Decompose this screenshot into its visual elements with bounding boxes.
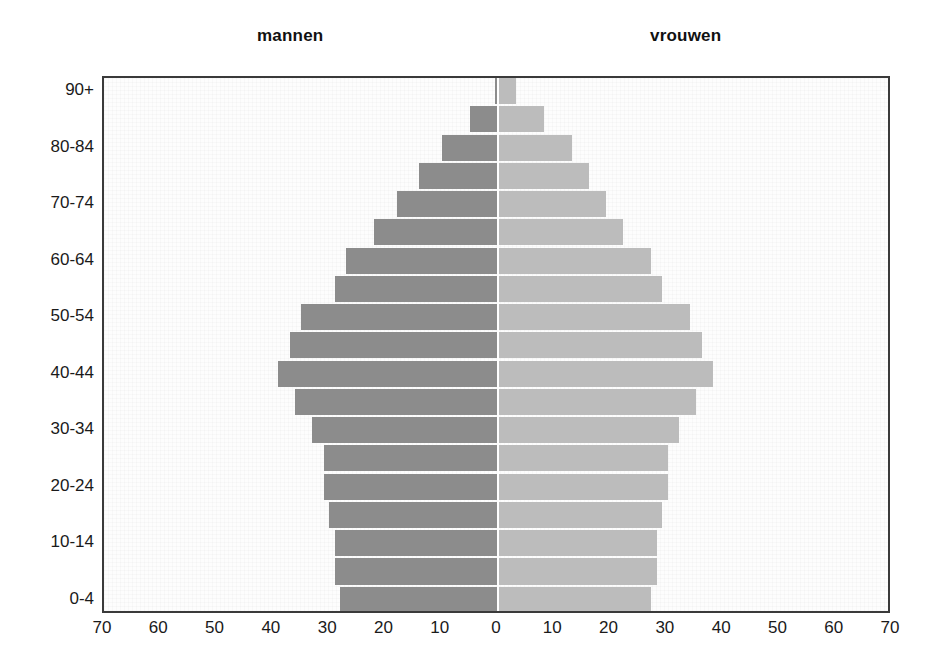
x-tick-label-14: 70 [881,618,900,638]
bar-row [104,530,888,556]
bar-male-70-74 [397,191,498,217]
bar-female-10-14 [499,530,657,556]
bar-female-75-79 [499,163,589,189]
bar-male-5-9 [335,558,498,584]
x-tick-label-7: 0 [491,618,500,638]
x-tick-label-10: 30 [655,618,674,638]
bar-row [104,389,888,415]
bar-row [104,163,888,189]
x-tick-label-5: 20 [374,618,393,638]
bar-row [104,106,888,132]
y-axis: 90+80-8470-7460-6450-5440-4430-3420-2410… [0,76,94,613]
chart-legend: mannen vrouwen [102,26,890,52]
legend-label-vrouwen: vrouwen [650,26,721,46]
x-tick-label-8: 10 [543,618,562,638]
bar-male-45-49 [290,332,498,358]
y-tick-label-40-44: 40-44 [51,363,94,383]
bar-male-55-59 [335,276,498,302]
bar-female-50-54 [499,304,690,330]
y-tick-label-0-4: 0-4 [69,589,94,609]
bar-row [104,248,888,274]
bar-row [104,332,888,358]
bar-female-55-59 [499,276,662,302]
bar-female-25-29 [499,445,668,471]
x-tick-label-9: 20 [599,618,618,638]
bar-row [104,219,888,245]
x-tick-label-11: 40 [712,618,731,638]
bar-male-50-54 [301,304,498,330]
bar-male-15-19 [329,502,498,528]
bar-row [104,587,888,613]
bar-female-70-74 [499,191,606,217]
bar-female-80-84 [499,135,572,161]
bar-female-40-44 [499,361,713,387]
bar-female-85-89 [499,106,544,132]
x-axis: 70605040302010010203040506070 [102,618,890,648]
bar-row [104,361,888,387]
x-tick-label-1: 60 [149,618,168,638]
bar-male-75-79 [419,163,498,189]
bar-male-25-29 [324,445,498,471]
bar-female-5-9 [499,558,657,584]
bar-row [104,304,888,330]
bars-layer [104,78,888,611]
x-tick-label-2: 50 [205,618,224,638]
bar-row [104,417,888,443]
bar-female-35-39 [499,389,696,415]
bar-male-85-89 [470,106,498,132]
plot-area [102,76,890,613]
x-tick-label-0: 70 [93,618,112,638]
y-tick-label-30-34: 30-34 [51,419,94,439]
bar-female-0-4 [499,587,651,613]
bar-male-30-34 [312,417,498,443]
y-tick-label-70-74: 70-74 [51,193,94,213]
x-tick-label-3: 40 [261,618,280,638]
y-tick-label-80-84: 80-84 [51,137,94,157]
y-tick-label-20-24: 20-24 [51,476,94,496]
bar-row [104,445,888,471]
bar-row [104,474,888,500]
legend-label-mannen: mannen [257,26,323,46]
bar-male-10-14 [335,530,498,556]
bar-female-15-19 [499,502,662,528]
bar-male-65-69 [374,219,498,245]
y-tick-label-10-14: 10-14 [51,532,94,552]
bar-female-90+ [499,78,516,104]
x-tick-label-13: 60 [824,618,843,638]
bar-row [104,78,888,104]
bar-female-45-49 [499,332,702,358]
bar-female-20-24 [499,474,668,500]
center-axis-line [497,78,499,611]
y-tick-label-60-64: 60-64 [51,250,94,270]
y-tick-label-50-54: 50-54 [51,306,94,326]
bar-male-35-39 [295,389,498,415]
bar-female-30-34 [499,417,679,443]
bar-row [104,276,888,302]
bar-female-65-69 [499,219,623,245]
bar-male-80-84 [442,135,498,161]
x-tick-label-12: 50 [768,618,787,638]
bar-male-40-44 [278,361,498,387]
x-tick-label-4: 30 [318,618,337,638]
bar-male-60-64 [346,248,498,274]
bar-row [104,502,888,528]
y-tick-label-90+: 90+ [65,80,94,100]
bar-row [104,558,888,584]
bar-row [104,191,888,217]
bar-male-0-4 [340,587,498,613]
bar-male-20-24 [324,474,498,500]
bar-female-60-64 [499,248,651,274]
population-pyramid-chart: mannen vrouwen 90+80-8470-7460-6450-5440… [0,0,925,668]
x-tick-label-6: 10 [430,618,449,638]
bar-row [104,135,888,161]
